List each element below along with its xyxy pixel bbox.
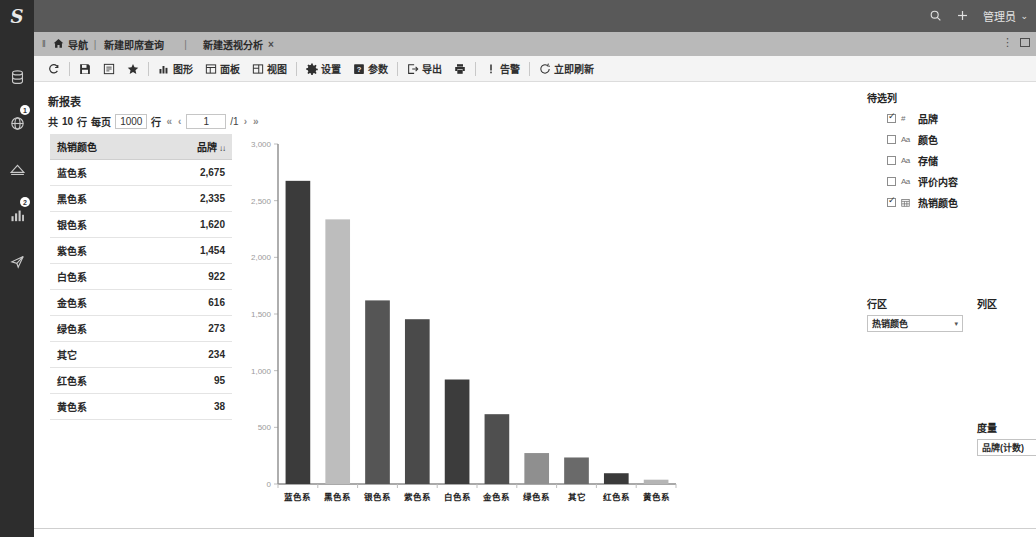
bar-group[interactable] [325,219,350,484]
field-item-3[interactable]: Aa存储 [887,150,958,171]
table-row[interactable]: 黑色系2,335 [50,186,232,212]
field-item-5[interactable]: 热销颜色 [887,192,958,213]
sidebar-item-database[interactable] [0,54,34,100]
table-row[interactable]: 银色系1,620 [50,212,232,238]
cell-color: 金色系 [50,290,152,316]
sidebar-item-analysis[interactable] [0,146,34,192]
bar-group[interactable] [524,453,549,484]
pager-last-button[interactable]: » [252,116,260,127]
toolbar-save-as-button[interactable] [97,61,121,77]
pager-first-button[interactable]: « [165,116,173,127]
row-zone-value: 热销颜色 [872,317,908,330]
table-row[interactable]: 紫色系1,454 [50,238,232,264]
column-header-brand[interactable]: 品牌↓↓ [152,134,232,160]
bar[interactable] [604,473,629,484]
bar[interactable] [644,480,669,484]
toolbar-export-button[interactable]: 导出 [401,59,448,78]
maximize-icon[interactable] [1020,38,1030,47]
toolbar-param-button[interactable]: ? 参数 [347,59,394,78]
page-title: 新报表 [48,93,81,109]
y-axis-tick-label: 0 [267,480,272,489]
bar-group[interactable] [564,457,589,484]
tab-new-adhoc-query[interactable]: 新建即席查询 [102,37,166,52]
bar[interactable] [365,300,390,484]
bar-group[interactable] [445,380,470,484]
row-zone-select[interactable]: 热销颜色 ▾ [867,315,963,332]
toolbar-refresh-button[interactable] [42,61,66,77]
bar-group[interactable] [405,319,430,484]
field-checkbox[interactable] [887,135,896,144]
user-menu[interactable]: 管理员 ⌄ [983,8,1028,24]
bar-chart: 05001,0001,5002,0002,5003,000蓝色系黑色系银色系紫色… [234,134,694,524]
search-icon[interactable] [929,9,942,24]
field-item-1[interactable]: #品牌 [887,108,958,129]
field-checkbox[interactable] [887,156,896,165]
y-axis-tick-label: 2,500 [251,197,272,206]
tab-new-pivot-analysis[interactable]: 新建透视分析 × [201,37,276,52]
measure-zone-select[interactable]: 品牌(计数) ▾ [977,439,1036,456]
toolbar-refresh-now-button[interactable]: 立即刷新 [533,59,600,78]
bar[interactable] [445,380,470,484]
refresh-now-icon [539,63,551,75]
bar[interactable] [405,319,430,484]
cell-color: 白色系 [50,264,152,290]
toolbar-favorite-button[interactable] [121,61,145,77]
bar-group[interactable] [485,414,510,484]
bar-group[interactable] [644,480,669,484]
field-checkbox[interactable] [887,114,896,123]
column-header-color[interactable]: 热销颜色 [50,134,152,160]
cell-color: 绿色系 [50,316,152,342]
cell-brand-count: 1,620 [152,212,232,238]
text-icon: Aa [901,177,913,186]
bar-group[interactable] [365,300,390,484]
table-row[interactable]: 绿色系273 [50,316,232,342]
table-row[interactable]: 红色系95 [50,368,232,394]
tab-home[interactable]: 导航 [53,37,88,52]
pager-next-button[interactable]: › [243,116,248,127]
field-label: 品牌 [918,111,938,126]
toolbar-chart-button[interactable]: 图形 [152,59,199,78]
bar[interactable] [286,181,311,484]
toolbar-panel-button[interactable]: 面板 [199,59,246,78]
toolbar-view-label: 视图 [267,61,287,76]
toolbar-view-button[interactable]: 视图 [246,59,293,78]
app-logo[interactable]: S [0,0,34,32]
sidebar-item-send[interactable] [0,238,34,284]
pager-page-input[interactable]: 1 [186,114,226,129]
field-item-2[interactable]: Aa颜色 [887,129,958,150]
bar-group[interactable] [286,181,311,484]
sidebar-item-chart[interactable]: 2 [0,192,34,238]
toolbar-print-button[interactable] [448,61,472,77]
measure-zone-label: 度量 [977,420,1036,435]
toolbar-export-label: 导出 [422,61,442,76]
print-icon [454,63,466,75]
bar[interactable] [524,453,549,484]
table-row[interactable]: 蓝色系2,675 [50,160,232,186]
overflow-menu-icon[interactable]: ⋮ [1002,36,1013,49]
bar-group[interactable] [604,473,629,484]
toolbar-save-button[interactable] [73,61,97,77]
toolbar-alert-button[interactable]: 告警 [479,59,526,78]
table-body: 蓝色系2,675黑色系2,335银色系1,620紫色系1,454白色系922金色… [50,160,232,420]
cell-color: 紫色系 [50,238,152,264]
bar[interactable] [564,457,589,484]
sort-descending-icon[interactable]: ↓↓ [219,144,225,153]
pager-perpage-input[interactable]: 1000 [115,114,147,129]
close-icon[interactable]: × [268,39,274,50]
x-axis-category-label: 蓝色系 [284,492,311,502]
field-item-4[interactable]: Aa评价内容 [887,171,958,192]
field-checkbox[interactable] [887,198,896,207]
table-row[interactable]: 黄色系38 [50,394,232,420]
pager-prev-button[interactable]: ‹ [177,116,182,127]
data-table: 热销颜色 品牌↓↓ 蓝色系2,675黑色系2,335银色系1,620紫色系1,4… [50,134,232,420]
bar[interactable] [485,414,510,484]
table-row[interactable]: 其它234 [50,342,232,368]
sidebar-item-global[interactable]: 1 [0,100,34,146]
table-row[interactable]: 金色系616 [50,290,232,316]
favorite-icon [127,63,139,75]
toolbar-settings-button[interactable]: 设置 [300,59,347,78]
bar[interactable] [325,219,350,484]
plus-icon[interactable] [956,9,969,24]
field-checkbox[interactable] [887,177,896,186]
table-row[interactable]: 白色系922 [50,264,232,290]
